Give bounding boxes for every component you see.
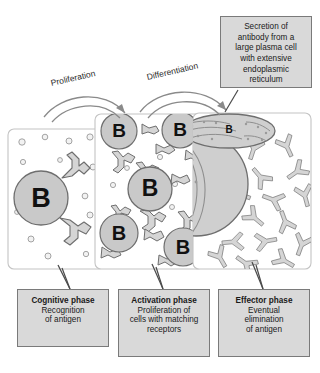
- leader-activation-2: [156, 267, 163, 289]
- phase-desc-line: Proliferation of: [119, 306, 209, 316]
- phase-title: Cognitive phase: [18, 296, 108, 306]
- callout-line: reticulum: [249, 75, 282, 84]
- callout-line: endoplasmic: [243, 65, 289, 74]
- plasma-cell-glyph: B: [223, 125, 235, 135]
- callout-line: Secretion of: [244, 22, 288, 31]
- secretion-callout-box: Secretion of antibody from a large plasm…: [220, 16, 312, 88]
- diagram-canvas: Secretion of antibody from a large plasm…: [0, 0, 320, 373]
- phase-desc-line: elimination: [219, 315, 309, 325]
- phase-box-cognitive: Cognitive phase Recognition of antigen: [17, 289, 109, 347]
- b-cell-glyph-cognitive: B: [27, 185, 55, 212]
- leader-cognitive-2: [62, 268, 70, 289]
- phase-desc-line: Recognition: [18, 306, 108, 316]
- phase-desc-line: cells with matching: [119, 315, 209, 325]
- callout-line: large plasma cell: [235, 43, 296, 52]
- phase-desc-line: receptors: [119, 325, 209, 335]
- phase-title: Activation phase: [119, 296, 209, 306]
- phase-box-activation: Activation phase Proliferation of cells …: [118, 289, 210, 357]
- panel-cognitive: [8, 129, 104, 269]
- phase-desc-line: of antigen: [219, 325, 309, 335]
- phase-desc-line: Eventual: [219, 306, 309, 316]
- b-cell-glyph-activation-1: B: [109, 121, 129, 140]
- callout-line: with extensive: [240, 54, 291, 63]
- callout-line: antibody from a: [238, 33, 294, 42]
- b-cell-glyph-activation-2: B: [170, 120, 190, 139]
- callout-leader: [225, 90, 238, 112]
- phase-title: Effector phase: [219, 296, 309, 306]
- phase-box-effector: Effector phase Eventual elimination of a…: [218, 289, 310, 357]
- b-cell-glyph-activation-3: B: [139, 177, 161, 200]
- b-cell-glyph-activation-5: B: [173, 237, 193, 257]
- phase-desc-line: of antigen: [18, 315, 108, 325]
- b-cell-glyph-activation-4: B: [109, 223, 129, 243]
